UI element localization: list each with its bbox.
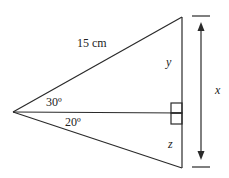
right-angle-marker-lower	[171, 113, 182, 124]
arrow-head-down-icon	[198, 151, 205, 160]
label-hypotenuse: 15 cm	[77, 36, 107, 50]
hypotenuse-lower	[13, 112, 182, 168]
horizontal-side	[13, 112, 182, 113]
label-y: y	[165, 55, 172, 69]
triangle-diagram: 15 cm y x 30º 20º z	[0, 0, 229, 178]
label-angle-30: 30º	[46, 95, 62, 109]
label-z: z	[167, 137, 173, 151]
arrow-head-up-icon	[198, 22, 205, 31]
hypotenuse-upper	[13, 17, 182, 112]
label-x: x	[214, 83, 221, 97]
right-angle-marker-upper	[171, 103, 182, 113]
label-angle-20: 20º	[65, 115, 81, 129]
